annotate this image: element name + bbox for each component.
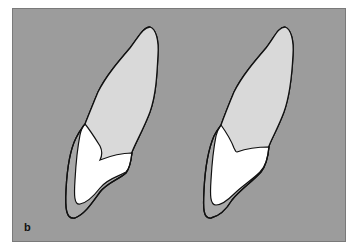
teeth-diagram (0, 0, 356, 252)
left-tooth (66, 27, 159, 218)
panel-label: b (24, 221, 31, 233)
right-tooth-root (221, 27, 293, 152)
right-tooth (204, 27, 294, 218)
